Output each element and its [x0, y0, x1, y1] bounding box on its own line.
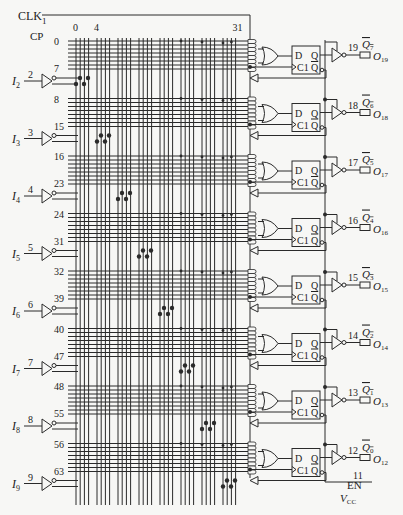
input-pin: 4: [28, 184, 33, 195]
fuse-dot: [187, 369, 191, 373]
feedback-buffer-icon: [250, 419, 258, 427]
ff-qbar-label: Q: [311, 465, 319, 476]
output-pin-icon: [360, 225, 370, 231]
fuse-dot: [191, 363, 195, 367]
junction-dot: [248, 180, 252, 184]
fuse-dot: [225, 478, 229, 482]
inverter-bubble-icon: [52, 306, 56, 310]
feedback-buffer-icon: [250, 362, 258, 370]
row-label-first: 24: [54, 209, 64, 220]
junction-dot: [248, 410, 252, 414]
ff-clk-label: C1: [297, 407, 309, 418]
or-gate-icon: [262, 47, 278, 65]
output-pin-icon: [360, 282, 370, 288]
ff-d-label: D: [295, 280, 302, 291]
qbar-bubble-icon: [320, 413, 324, 417]
inverter-bubble-icon: [52, 479, 56, 483]
or-gate-icon: [262, 335, 278, 353]
ff-clk-label: C1: [297, 177, 309, 188]
output-pin-icon: [360, 455, 370, 461]
ff-qbar-label: Q: [311, 120, 319, 131]
fuse-dot: [183, 363, 187, 367]
row-label-last: 15: [54, 121, 64, 132]
ff-qbar-label: Q: [311, 62, 319, 73]
qbar-bubble-icon: [320, 183, 324, 187]
column-label: 4: [94, 22, 99, 33]
fuse-dot: [212, 421, 216, 425]
ff-q-label: Q: [311, 453, 319, 464]
row-label-last: 63: [54, 466, 64, 477]
input-pin: 8: [28, 414, 33, 425]
fuse-dot: [201, 41, 204, 44]
input-buffer-icon: [42, 419, 52, 433]
fuse-dot: [95, 139, 99, 143]
output-o-label: O16: [373, 223, 388, 237]
fuse-dot: [201, 328, 204, 331]
feedback-buffer-icon: [250, 247, 258, 255]
input-pin: 3: [28, 127, 33, 138]
junction-dot: [248, 123, 252, 127]
ff-clk-label: C1: [297, 465, 309, 476]
feedback-buffer-icon: [250, 74, 258, 82]
ff-d-label: D: [295, 50, 302, 61]
input-pin: 7: [28, 357, 33, 368]
ff-q-label: Q: [311, 50, 319, 61]
fuse-dot: [230, 213, 233, 216]
input-buffer-icon: [42, 189, 52, 203]
fuse-dot: [107, 133, 111, 137]
fuse-dot: [124, 197, 128, 201]
fuse-dot: [222, 272, 225, 275]
output-pin-number: 12: [348, 445, 358, 456]
ff-q-label: Q: [311, 165, 319, 176]
output-pin-icon: [360, 52, 370, 58]
ff-d-label: D: [295, 453, 302, 464]
input-buffer-icon: [42, 477, 52, 491]
row-label-last: 31: [54, 236, 64, 247]
fuse-dot: [222, 42, 225, 45]
column-label: 31: [233, 22, 243, 33]
fuse-dot: [222, 99, 225, 102]
junction-dot: [323, 443, 327, 447]
input-label: I6: [11, 304, 20, 320]
or-gate-icon: [262, 450, 278, 468]
logic-block: 1623I44DQC1Q17Q5O17: [11, 151, 388, 205]
fuse-dot: [230, 156, 233, 159]
fuse-dot: [230, 271, 233, 274]
ff-qbar-label: Q: [311, 177, 319, 188]
logic-block: 4855I88DQC1Q13Q1O13: [11, 381, 388, 435]
feedback-buffer-icon: [250, 189, 258, 197]
ff-q-label: Q: [311, 108, 319, 119]
inverter-bubble-icon: [52, 421, 56, 425]
logic-block: 5663I99DQC1Q12Q0O12: [11, 439, 388, 493]
qbar-bubble-icon: [320, 356, 324, 360]
feedback-buffer-icon: [250, 477, 258, 485]
fuse-dot: [204, 421, 208, 425]
ff-q-label: Q: [311, 395, 319, 406]
fuse-dot: [230, 443, 233, 446]
input-label: I4: [11, 189, 20, 205]
logic-block: 3239I66DQC1Q15Q3O15: [11, 266, 388, 320]
qbar-bubble-icon: [320, 126, 324, 130]
qbar-bubble-icon: [320, 241, 324, 245]
logic-block: 2431I55DQC1Q16Q4O16: [11, 209, 388, 263]
output-pin-number: 16: [348, 215, 358, 226]
fuse-dot: [180, 97, 183, 100]
qbar-bubble-icon: [320, 68, 324, 72]
fuse-dot: [158, 312, 162, 316]
fuse-dot: [145, 254, 149, 258]
or-gate-icon: [262, 392, 278, 410]
junction-dot: [323, 328, 327, 332]
fuse-dot: [180, 385, 183, 388]
junction-dot: [323, 98, 327, 102]
input-label: I5: [11, 247, 20, 263]
fuse-dot: [222, 157, 225, 160]
fuse-dot: [222, 444, 225, 447]
row-label-first: 32: [54, 266, 64, 277]
fuse-dot: [149, 248, 153, 252]
output-o-label: O13: [373, 395, 388, 409]
inverter-bubble-icon: [52, 76, 56, 80]
fuse-dot: [230, 386, 233, 389]
output-pin-number: 18: [348, 100, 358, 111]
fuse-dot: [222, 329, 225, 332]
or-gate-icon: [262, 162, 278, 180]
